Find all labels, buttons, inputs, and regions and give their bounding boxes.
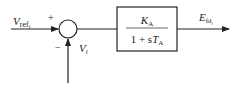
feedback-label: Vi: [79, 43, 88, 56]
output-label: Efdi: [199, 12, 213, 26]
tf-numerator: KA: [117, 14, 177, 28]
summing-junction: [59, 20, 77, 38]
transfer-function: KA 1 + sTA: [117, 7, 177, 51]
minus-sign: −: [55, 43, 61, 53]
input-label: Vrefi: [13, 16, 30, 30]
block-diagram: Vrefi + − Vi KA 1 + sTA Efdi: [0, 0, 244, 88]
plus-sign: +: [48, 13, 54, 23]
tf-denominator: 1 + sTA: [117, 33, 177, 47]
